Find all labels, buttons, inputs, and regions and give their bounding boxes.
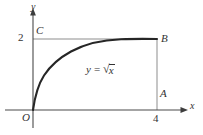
x-tick-label-4: 4 (153, 113, 159, 124)
y-axis-label: y (31, 2, 35, 12)
curve-equation-label: y = √ x (86, 64, 115, 77)
point-label-a: A (160, 88, 167, 99)
equation-operator: = (94, 64, 100, 75)
point-label-c: C (36, 25, 43, 36)
x-axis-arrow-icon (181, 107, 189, 113)
point-label-o: O (22, 112, 30, 123)
equation-lhs: y (86, 64, 91, 75)
radical-group: √ x (103, 64, 114, 77)
math-figure: y x O A B C 2 4 y = √ x (0, 0, 203, 135)
point-label-b: B (161, 33, 168, 44)
x-axis-label: x (190, 101, 194, 111)
radicand: x (109, 64, 115, 77)
y-tick-label-2: 2 (18, 32, 24, 43)
